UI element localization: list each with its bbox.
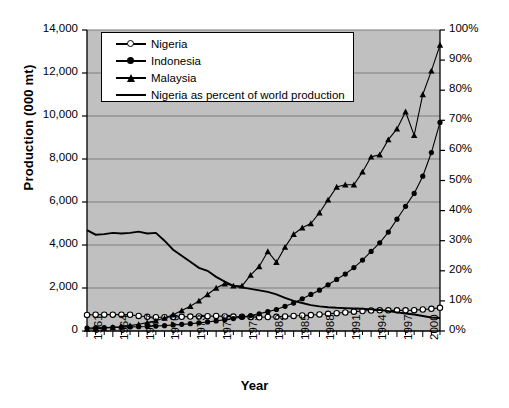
y-tick-label-right: 70% — [449, 112, 505, 124]
data-point-marker — [403, 308, 408, 313]
data-point-marker — [351, 265, 356, 270]
data-point-marker — [265, 309, 270, 314]
y-tick-label-right: 60% — [449, 142, 505, 154]
y-tick-label-left: 8,000 — [22, 151, 78, 163]
y-tick-label-right: 80% — [449, 82, 505, 94]
data-point-marker — [403, 204, 408, 209]
y-tick-label-right: 100% — [449, 22, 505, 34]
y-tick-label-left: 14,000 — [22, 22, 78, 34]
data-point-marker — [213, 313, 218, 318]
chart-container: Production (000 mt) Year Nigeria Indones… — [0, 0, 509, 408]
x-tick-label: 1994 — [376, 314, 388, 340]
y-tick-label-left: 10,000 — [22, 108, 78, 120]
legend-label: Malaysia — [151, 72, 196, 84]
x-tick-label: 1976 — [221, 314, 233, 340]
legend-label: Nigeria — [151, 38, 187, 50]
y-tick-label-left: 0 — [22, 323, 78, 335]
x-tick-label: 1985 — [299, 314, 311, 340]
data-point-marker — [325, 282, 330, 287]
data-point-marker — [343, 271, 348, 276]
y-tick-label-right: 40% — [449, 203, 505, 215]
y-tick-label-right: 10% — [449, 293, 505, 305]
x-tick-label: 1970 — [169, 314, 181, 340]
data-point-marker — [429, 306, 434, 311]
x-tick-label: 1982 — [273, 314, 285, 340]
legend-label: Indonesia — [151, 55, 201, 67]
data-point-marker — [188, 314, 193, 319]
data-point-marker — [394, 217, 399, 222]
data-point-marker — [360, 257, 365, 262]
data-point-marker — [420, 307, 425, 312]
data-point-marker — [317, 312, 322, 317]
y-tick-label-left: 2,000 — [22, 280, 78, 292]
data-point-marker — [274, 307, 279, 312]
data-point-marker — [136, 313, 141, 318]
legend-item-indonesia: Indonesia — [116, 52, 353, 69]
y-tick-label-left: 12,000 — [22, 65, 78, 77]
x-tick-label: 1961 — [92, 314, 104, 340]
data-point-marker — [429, 150, 434, 155]
data-point-marker — [188, 321, 193, 326]
data-point-marker — [239, 314, 244, 319]
line-marker-icon — [116, 89, 146, 101]
data-point-marker — [386, 230, 391, 235]
legend-item-nigeria-percent: Nigeria as percent of world production — [116, 86, 353, 103]
data-point-marker — [110, 312, 115, 317]
x-tick-label: 1988 — [324, 314, 336, 340]
legend-item-nigeria: Nigeria — [116, 35, 353, 52]
data-point-marker — [411, 307, 416, 312]
y-tick-label-right: 0% — [449, 323, 505, 335]
data-point-marker — [343, 310, 348, 315]
data-point-marker — [308, 292, 313, 297]
data-point-marker — [162, 323, 167, 328]
y-tick-label-right: 90% — [449, 52, 505, 64]
x-tick-label: 1964 — [118, 314, 130, 340]
data-point-marker — [300, 296, 305, 301]
data-point-marker — [420, 174, 425, 179]
x-tick-label: 1973 — [195, 314, 207, 340]
x-tick-label: 1991 — [350, 314, 362, 340]
y-tick-label-right: 30% — [449, 233, 505, 245]
filled-circle-marker-icon — [116, 55, 146, 67]
x-tick-label: 1997 — [402, 314, 414, 340]
data-point-marker — [282, 304, 287, 309]
data-point-marker — [84, 312, 89, 317]
data-point-marker — [214, 318, 219, 323]
data-point-marker — [412, 191, 417, 196]
data-point-marker — [377, 240, 382, 245]
y-tick-label-left: 6,000 — [22, 194, 78, 206]
x-tick-label: 1979 — [247, 314, 259, 340]
legend-item-malaysia: Malaysia — [116, 69, 353, 86]
legend-label: Nigeria as percent of world production — [151, 89, 345, 101]
y-tick-label-left: 4,000 — [22, 237, 78, 249]
data-point-marker — [291, 313, 296, 318]
y-tick-label-right: 20% — [449, 263, 505, 275]
data-point-marker — [334, 277, 339, 282]
x-tick-label: 2000 — [428, 314, 440, 340]
filled-triangle-marker-icon — [116, 72, 146, 84]
open-circle-marker-icon — [116, 38, 146, 50]
data-point-marker — [369, 249, 374, 254]
y-tick-label-right: 50% — [449, 173, 505, 185]
data-point-marker — [437, 305, 442, 310]
chart-legend: Nigeria Indonesia Malaysia Nigeria as pe… — [101, 32, 354, 102]
data-point-marker — [317, 288, 322, 293]
data-point-marker — [265, 314, 270, 319]
x-tick-label: 1967 — [144, 314, 156, 340]
data-point-marker — [437, 120, 442, 125]
